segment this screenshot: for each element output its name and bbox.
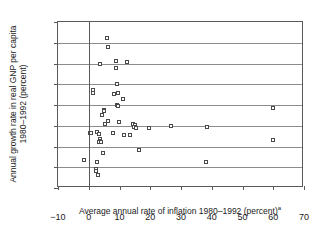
data-point	[204, 160, 208, 164]
gridline	[58, 84, 302, 85]
y-axis-tick	[54, 105, 58, 106]
y-axis-tick	[54, 147, 58, 148]
data-point	[128, 133, 132, 137]
data-point	[114, 66, 118, 70]
gridline	[58, 64, 302, 65]
data-point	[121, 97, 125, 101]
y-axis-tick	[54, 64, 58, 65]
data-point	[114, 59, 118, 63]
data-point	[103, 122, 107, 126]
y-axis-title: Annual growth rate in real GNP per capit…	[0, 21, 36, 187]
data-point	[95, 160, 99, 164]
data-point	[96, 173, 100, 177]
y-axis-tick	[54, 167, 58, 168]
x-axis-title-text: Average annual rate of inflation 1980–19…	[79, 206, 278, 216]
data-point	[134, 126, 138, 130]
x-axis-tick	[89, 186, 90, 190]
x-axis-tick	[304, 186, 305, 190]
y-axis-title-line1: Annual growth rate in real GNP per capit…	[8, 25, 18, 182]
x-zero-line	[89, 22, 90, 186]
x-axis-tick	[58, 186, 59, 190]
x-axis-tick	[243, 186, 244, 190]
data-point	[99, 140, 103, 144]
data-point	[111, 131, 115, 135]
data-point	[125, 60, 129, 64]
data-point	[116, 91, 120, 95]
gridline	[58, 105, 302, 106]
data-point	[98, 62, 102, 66]
x-axis-tick	[212, 186, 213, 190]
data-point	[205, 125, 209, 129]
data-point	[271, 106, 275, 110]
x-axis-tick	[150, 186, 151, 190]
data-point	[122, 133, 126, 137]
y-axis-tick	[54, 84, 58, 85]
data-point	[89, 131, 93, 135]
plot-area: −6−4−20246810 −10010203040506070	[57, 21, 303, 187]
data-point	[91, 91, 95, 95]
x-axis-tick	[181, 186, 182, 190]
x-axis-title-footnote-marker: a	[278, 205, 281, 211]
y-axis-tick	[54, 43, 58, 44]
data-point	[97, 132, 101, 136]
data-point	[106, 45, 110, 49]
data-point	[169, 124, 173, 128]
gridline	[58, 147, 302, 148]
data-point	[100, 113, 104, 117]
x-axis-tick	[273, 186, 274, 190]
scatter-chart-figure: Annual growth rate in real GNP per capit…	[0, 0, 319, 228]
data-point	[105, 36, 109, 40]
y-axis-tick	[54, 126, 58, 127]
gridline	[58, 43, 302, 44]
data-point	[147, 126, 151, 130]
gridline	[58, 126, 302, 127]
data-point	[82, 158, 86, 162]
data-point	[116, 104, 120, 108]
data-point	[106, 119, 110, 123]
data-point	[101, 151, 105, 155]
data-point	[117, 120, 121, 124]
x-axis-tick	[120, 186, 121, 190]
x-axis-title: Average annual rate of inflation 1980–19…	[57, 203, 303, 216]
data-point	[271, 138, 275, 142]
y-axis-title-line2: 1980–1992 (percent)	[18, 25, 28, 182]
data-point	[137, 148, 141, 152]
data-point	[115, 82, 119, 86]
y-axis-tick	[54, 22, 58, 23]
